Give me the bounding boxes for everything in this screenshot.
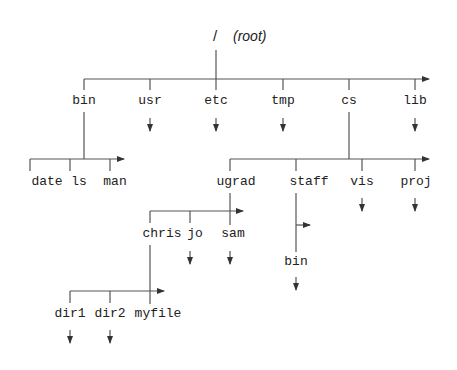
- node-lib: lib: [403, 93, 426, 108]
- node-sam: sam: [221, 226, 245, 241]
- node-staff: staff: [289, 174, 328, 189]
- node-myfile: myfile: [135, 306, 182, 321]
- node-jo: jo: [187, 226, 203, 241]
- node-chris: chris: [142, 226, 181, 241]
- node-man: man: [103, 174, 126, 189]
- root-node: / (root): [213, 27, 267, 44]
- node-tmp: tmp: [271, 93, 294, 108]
- node-proj: proj: [400, 174, 431, 189]
- node-dir2: dir2: [94, 306, 125, 321]
- node-ugrad: ugrad: [216, 174, 255, 189]
- directory-tree-diagram: / (root) bin usr etc tmp cs lib date ls …: [0, 0, 457, 370]
- node-etc: etc: [204, 93, 227, 108]
- node-vis: vis: [350, 174, 373, 189]
- node-ls: ls: [71, 174, 87, 189]
- root-label: (root): [233, 28, 266, 44]
- root-symbol: /: [213, 27, 218, 44]
- node-usr: usr: [138, 93, 161, 108]
- node-cs: cs: [341, 93, 357, 108]
- node-staff-bin: bin: [284, 254, 307, 269]
- node-date: date: [31, 174, 62, 189]
- node-dir1: dir1: [54, 306, 85, 321]
- node-bin: bin: [72, 93, 95, 108]
